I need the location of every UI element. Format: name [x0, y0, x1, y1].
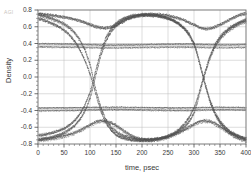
x-tick-label: 400	[234, 149, 251, 156]
y-tick-label: 0.8	[8, 6, 32, 13]
x-tick-label: 200	[130, 149, 154, 156]
trace-group	[38, 12, 247, 143]
x-tick-label: 100	[78, 149, 102, 156]
x-tick-label: 50	[52, 149, 76, 156]
y-tick-label: 0.4	[8, 40, 32, 47]
x-tick-label: 300	[182, 149, 206, 156]
x-tick-label: 350	[208, 149, 232, 156]
y-tick-label: 0.6	[8, 23, 32, 30]
y-tick-label: -0.4	[8, 107, 32, 114]
x-tick-label: 150	[104, 149, 128, 156]
y-tick-label: -0.2	[8, 90, 32, 97]
y-tick-label: -0.6	[8, 123, 32, 130]
x-tick-label: 250	[156, 149, 180, 156]
x-tick-label: 0	[26, 149, 50, 156]
chart-root: AGI Density time, psec -0.8-0.6-0.4-0.20…	[0, 0, 251, 177]
y-tick-label: -0.8	[8, 140, 32, 147]
y-tick-label: 0.0	[8, 73, 32, 80]
y-tick-label: 0.2	[8, 56, 32, 63]
